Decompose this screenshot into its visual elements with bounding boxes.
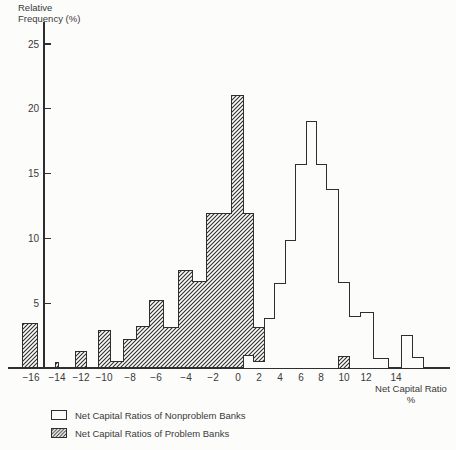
x-axis-title-line1: Net Capital Ratio <box>365 383 456 394</box>
y-tick-label: 20 <box>28 103 40 114</box>
y-tick-label: 5 <box>33 298 39 309</box>
y-axis-title-line2: Frequency (%) <box>18 13 80 24</box>
hatched-bar-swatch-icon <box>51 428 67 438</box>
x-axis-title-line2: % <box>365 394 456 405</box>
nonproblem-banks-bars <box>402 336 424 368</box>
problem-banks-front-bar <box>338 356 349 368</box>
x-tick-label: 8 <box>318 372 324 383</box>
x-tick-label: −16 <box>23 372 40 383</box>
y-axis-title: Relative Frequency (%) <box>18 2 80 24</box>
x-tick-label: 6 <box>298 372 304 383</box>
x-tick-label: 10 <box>338 372 350 383</box>
histogram-figure: 510152025−16−14−12−10−8−6−4−202468101214… <box>0 0 456 450</box>
problem-banks-bars <box>56 363 59 368</box>
x-tick-label: 0 <box>235 372 241 383</box>
legend-label-problem: Net Capital Ratios of Problem Banks <box>75 428 229 439</box>
x-tick-label: −6 <box>150 372 162 383</box>
x-tick-label: −10 <box>96 372 113 383</box>
legend-item-problem: Net Capital Ratios of Problem Banks <box>51 424 246 442</box>
x-axis-title: Net Capital Ratio % <box>365 383 456 405</box>
x-tick-label: 4 <box>277 372 283 383</box>
y-tick-label: 25 <box>28 39 40 50</box>
legend-item-nonproblem: Net Capital Ratios of Nonproblem Banks <box>51 406 246 424</box>
y-axis-title-line1: Relative <box>18 2 80 13</box>
x-tick-label: −2 <box>207 372 219 383</box>
problem-banks-bars <box>22 324 37 368</box>
open-bar-swatch-icon <box>51 410 67 420</box>
nonproblem-banks-bars <box>243 122 388 368</box>
x-tick-label: −12 <box>73 372 90 383</box>
x-tick-label: −4 <box>180 372 192 383</box>
y-tick-label: 15 <box>28 168 40 179</box>
x-tick-label: −8 <box>124 372 136 383</box>
x-tick-label: 14 <box>390 372 402 383</box>
y-tick-label: 10 <box>28 233 40 244</box>
legend: Net Capital Ratios of Nonproblem Banks N… <box>51 406 246 442</box>
legend-label-nonproblem: Net Capital Ratios of Nonproblem Banks <box>75 410 246 421</box>
x-tick-label: 12 <box>360 372 372 383</box>
x-tick-label: −14 <box>49 372 66 383</box>
x-tick-label: 2 <box>256 372 262 383</box>
problem-banks-bars <box>75 351 87 368</box>
